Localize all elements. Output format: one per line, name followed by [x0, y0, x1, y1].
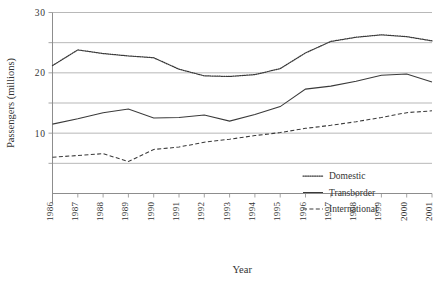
- x-axis-label: 1990: [146, 201, 156, 221]
- x-axis-label: 1995: [272, 201, 282, 221]
- line-chart: 302010 198619871988198919901991199219931…: [0, 0, 444, 284]
- x-axis-label: 1991: [171, 202, 181, 222]
- y-axis-label: 10: [35, 129, 46, 139]
- y-axis-label: 30: [35, 8, 46, 18]
- x-axis-label: 2000: [399, 201, 409, 221]
- chart-canvas: 302010 198619871988198919901991199219931…: [0, 0, 444, 284]
- x-axis-label: 1988: [95, 201, 105, 221]
- series-line-transborder: [53, 74, 433, 124]
- y-axis-labels: 302010: [35, 8, 46, 139]
- legend-label-transborder: Transborder: [329, 188, 376, 198]
- x-axis-label: 2001: [424, 202, 434, 222]
- x-axis-label: 1992: [196, 202, 206, 222]
- x-axis-label: 1986: [45, 201, 55, 221]
- y-axis-label: 20: [35, 68, 46, 78]
- x-axis-label: 1996: [298, 201, 308, 221]
- y-axis-ticks: [49, 13, 53, 164]
- chart-legend: DomesticTransborderInternational: [303, 171, 378, 214]
- legend-label-international: International: [329, 204, 378, 214]
- legend-label-domestic: Domestic: [329, 171, 365, 181]
- y-axis-title: Passengers (millions): [5, 57, 17, 148]
- x-axis-title: Year: [233, 264, 253, 275]
- series-line-international: [53, 111, 433, 162]
- x-axis-label: 1994: [247, 201, 257, 221]
- x-axis-label: 1989: [120, 201, 130, 221]
- x-axis-label: 1993: [222, 201, 232, 221]
- series-line-domestic: [53, 35, 433, 77]
- data-series: [53, 35, 433, 162]
- x-axis-label: 1987: [70, 201, 80, 221]
